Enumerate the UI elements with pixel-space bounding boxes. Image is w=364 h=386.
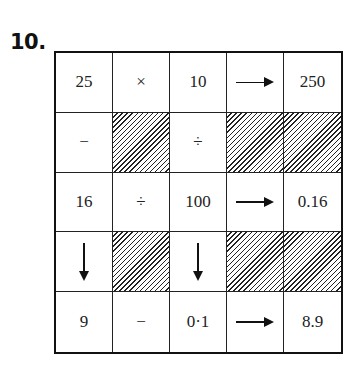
cell-hatched bbox=[284, 113, 341, 173]
cell-hatched bbox=[227, 113, 284, 173]
cell-arrow bbox=[227, 53, 284, 113]
cell-number: 16 bbox=[56, 173, 113, 233]
cell-result: 0·1 bbox=[170, 292, 227, 352]
arrow-down-icon bbox=[193, 243, 203, 281]
cell-number: 25 bbox=[56, 53, 113, 113]
arrow-right-icon bbox=[236, 197, 274, 207]
arrow-down-icon bbox=[79, 243, 89, 281]
cell-operator-divide: ÷ bbox=[170, 113, 227, 173]
cell-operator-minus: − bbox=[56, 113, 113, 173]
cell-arrow bbox=[227, 292, 284, 352]
cell-arrow bbox=[170, 232, 227, 292]
cell-operator-multiply: × bbox=[113, 53, 170, 113]
cell-result: 250 bbox=[284, 53, 341, 113]
arrow-right-icon bbox=[236, 317, 274, 327]
cell-hatched bbox=[284, 232, 341, 292]
cell-operator-minus: − bbox=[113, 292, 170, 352]
cell-arrow bbox=[227, 173, 284, 233]
cell-hatched bbox=[227, 232, 284, 292]
cell-result: 9 bbox=[56, 292, 113, 352]
question-number: 10. bbox=[10, 30, 46, 54]
arrow-right-icon bbox=[236, 77, 274, 87]
cell-result: 8.9 bbox=[284, 292, 341, 352]
cell-operator-divide: ÷ bbox=[113, 173, 170, 233]
cell-result: 0.16 bbox=[284, 173, 341, 233]
cell-arrow bbox=[56, 232, 113, 292]
cell-hatched bbox=[113, 113, 170, 173]
cell-number: 10 bbox=[170, 53, 227, 113]
arithmetic-grid: 25 × 10 250 − ÷ 16 ÷ 100 0.16 9 − 0·1 8.… bbox=[54, 51, 343, 354]
cell-number: 100 bbox=[170, 173, 227, 233]
cell-hatched bbox=[113, 232, 170, 292]
